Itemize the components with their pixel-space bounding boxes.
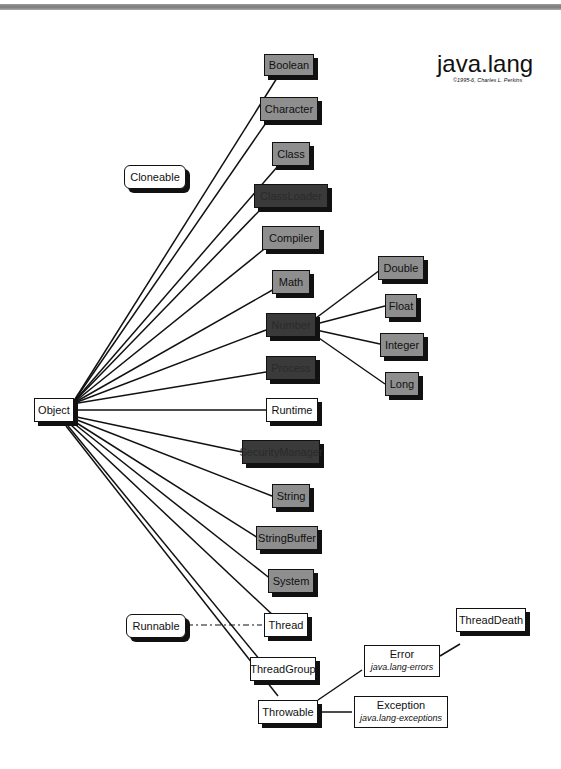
class-class[interactable]: Class (272, 142, 310, 166)
class-long[interactable]: Long (385, 372, 419, 396)
class-character[interactable]: Character (260, 97, 318, 121)
class-object[interactable]: Object (34, 398, 74, 422)
exception-package-ref: java.lang-exceptions (360, 712, 442, 725)
interface-cloneable[interactable]: Cloneable (124, 165, 186, 189)
class-exception[interactable]: Exception java.lang-exceptions (354, 696, 448, 728)
error-label: Error (390, 648, 414, 661)
class-stringbuffer[interactable]: StringBuffer (256, 526, 318, 550)
class-runtime[interactable]: Runtime (266, 398, 318, 422)
class-threadgroup[interactable]: ThreadGroup (250, 657, 316, 681)
class-math[interactable]: Math (272, 270, 310, 294)
copyright-text: ©1995-6, Charles L. Perkins (453, 77, 522, 83)
class-integer[interactable]: Integer (380, 333, 424, 357)
interface-runnable[interactable]: Runnable (126, 614, 186, 638)
class-error[interactable]: Error java.lang-errors (364, 645, 440, 677)
class-classloader[interactable]: ClassLoader (254, 184, 328, 208)
class-float[interactable]: Float (385, 294, 417, 318)
class-securitymanager[interactable]: SecurityManager (242, 440, 320, 464)
class-threaddeath[interactable]: ThreadDeath (456, 608, 526, 632)
exception-label: Exception (377, 699, 425, 712)
class-thread[interactable]: Thread (264, 613, 308, 637)
class-boolean[interactable]: Boolean (264, 54, 314, 76)
class-double[interactable]: Double (378, 256, 424, 280)
class-number[interactable]: Number (266, 313, 316, 337)
error-package-ref: java.lang-errors (371, 661, 434, 674)
class-throwable[interactable]: Throwable (258, 700, 318, 724)
class-process[interactable]: Process (266, 356, 316, 380)
package-title: java.lang (437, 50, 533, 78)
class-system[interactable]: System (268, 569, 314, 593)
class-compiler[interactable]: Compiler (262, 226, 320, 250)
class-string[interactable]: String (272, 484, 310, 508)
